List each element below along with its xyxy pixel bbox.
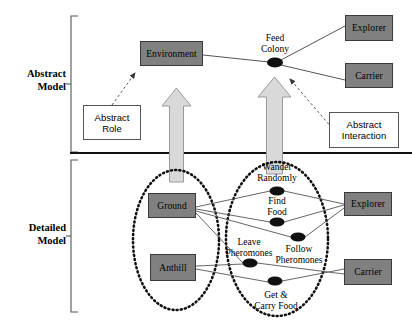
node-leave-pheromones xyxy=(243,258,258,267)
link-feedcolony-carrier xyxy=(281,65,345,80)
diagram-canvas: Abstract Model Detailed Model Environmen… xyxy=(0,0,412,334)
refinement-arrow-interaction xyxy=(258,77,291,174)
callout-abstract-role[interactable]: Abstract Role xyxy=(83,105,141,140)
link-environment-feedcolony xyxy=(203,55,269,62)
abstract-entity-carrier[interactable]: Carrier xyxy=(345,63,393,88)
detailed-role-carrier[interactable]: Carrier xyxy=(344,259,392,285)
abstract-interaction-feed-colony-label: Feed Colony xyxy=(243,33,307,55)
behaviour-label-wander-randomly: Wander Randomly xyxy=(245,162,309,184)
section-label-detailed-model: Detailed Model xyxy=(8,221,66,247)
abstract-entity-environment[interactable]: Environment xyxy=(140,41,203,66)
behaviour-label-leave-pheromones: Leave Pheromones xyxy=(213,237,285,259)
behaviour-label-find-food: Find Food xyxy=(250,196,304,218)
callout-abstract-interaction[interactable]: Abstract Interaction xyxy=(329,112,399,148)
bracket-abstract-model xyxy=(66,16,78,152)
link-anthill-getcarry xyxy=(196,269,268,282)
detailed-entity-anthill[interactable]: Anthill xyxy=(150,254,196,281)
node-get-carry-food xyxy=(268,276,283,285)
detailed-entity-ground[interactable]: Ground xyxy=(148,193,196,218)
link-anthill-leave xyxy=(196,264,243,266)
abstract-entity-explorer[interactable]: Explorer xyxy=(345,15,393,41)
behaviour-label-get-carry-food: Get & Carry Food xyxy=(243,290,309,312)
section-label-abstract-model: Abstract Model xyxy=(8,67,66,93)
feed-colony-node xyxy=(267,58,283,68)
node-follow-pheromones xyxy=(291,232,306,241)
link-getcarry-carrier xyxy=(282,269,344,281)
leader-abstract-role xyxy=(112,73,135,105)
bracket-detailed-model xyxy=(66,160,78,312)
node-find-food xyxy=(270,217,285,226)
detailed-role-explorer[interactable]: Explorer xyxy=(344,192,392,216)
node-wander-randomly xyxy=(270,186,285,195)
environment-group-ellipse xyxy=(133,170,219,310)
refinement-arrow-environment xyxy=(162,88,191,182)
leader-abstract-interaction xyxy=(290,79,332,128)
